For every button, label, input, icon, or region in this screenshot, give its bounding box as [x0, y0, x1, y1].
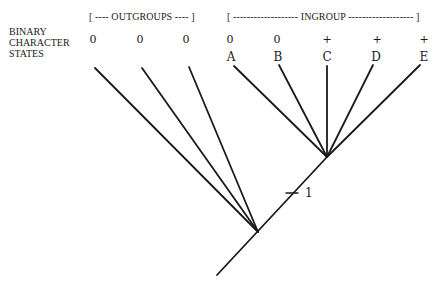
cladogram: [0, 0, 437, 283]
outgroup-1-branch: [95, 68, 258, 232]
taxon-a-branch: [234, 66, 327, 157]
taxon-e-branch: [327, 65, 420, 157]
taxon-d-branch: [327, 65, 373, 157]
synapomorphy-label: 1: [305, 187, 313, 199]
taxon-b-branch: [279, 65, 327, 157]
